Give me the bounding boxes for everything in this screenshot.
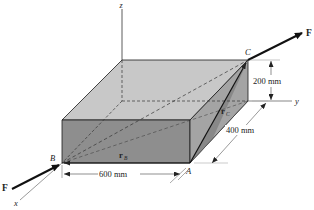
rc-label-sub: C	[226, 111, 230, 117]
force-f-top-label: F	[306, 28, 312, 38]
block-vector-diagram: z y r B r C x F F B A C 600 mm 400 mm	[0, 0, 314, 210]
rc-label: r	[221, 106, 225, 116]
dim-600-label: 600 mm	[99, 169, 127, 179]
dim-400-label: 400 mm	[226, 125, 254, 135]
rb-label: r	[119, 150, 123, 160]
y-axis-label: y	[294, 96, 299, 106]
dim-400-tail	[170, 168, 186, 183]
point-b-label: B	[50, 153, 55, 163]
force-f-at-b	[12, 165, 59, 189]
force-f-at-c	[248, 33, 302, 60]
z-axis-label: z	[119, 1, 124, 10]
force-f-bottom-label: F	[2, 183, 8, 193]
dim-200-label: 200 mm	[253, 76, 281, 86]
point-a-label: A	[185, 166, 192, 176]
point-c-label: C	[245, 47, 251, 57]
x-axis-label: x	[13, 198, 18, 208]
